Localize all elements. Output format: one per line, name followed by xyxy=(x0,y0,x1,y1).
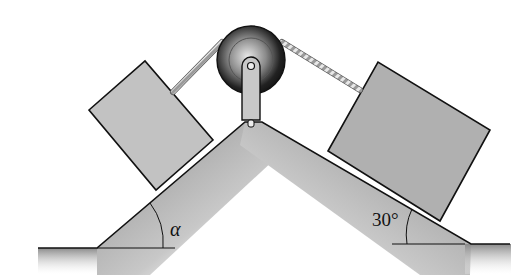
bracket-pin xyxy=(248,120,254,127)
angle-alpha-label: α xyxy=(170,218,181,240)
angle-30-label: 30° xyxy=(372,209,399,230)
pulley-axle xyxy=(248,63,255,70)
incline-pulley-diagram: α 30° xyxy=(0,0,532,275)
pulley xyxy=(217,26,285,127)
